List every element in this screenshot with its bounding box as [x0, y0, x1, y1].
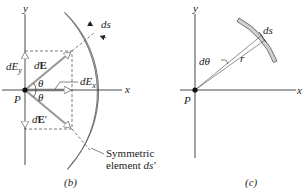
panel-b: y x P dEy dE dE′ dEx θ θ ds Symmetric el…	[2, 2, 156, 188]
origin-label-c: P	[183, 94, 191, 106]
x-axis-label-c: x	[296, 84, 302, 96]
caption-b: (b)	[64, 176, 77, 188]
dE-vector	[25, 53, 70, 91]
point-P-c	[192, 87, 197, 92]
r-label: r	[240, 52, 245, 64]
caption-c: (c)	[245, 176, 258, 188]
origin-label-b: P	[13, 93, 21, 105]
ds-label-c: ds	[263, 24, 273, 36]
y-axis-label-b: y	[22, 2, 28, 14]
theta-label-lower: θ	[38, 91, 44, 103]
dE-label: dE	[34, 59, 47, 71]
ds-tick-2	[100, 36, 106, 38]
ds-tick-1	[88, 23, 93, 26]
panel-c: y x P dθ r ds (c)	[180, 2, 302, 188]
ds-prime-leader	[91, 148, 104, 154]
ds-label-b: ds	[101, 18, 111, 30]
dEx-leader	[55, 82, 78, 89]
dtheta-label: dθ	[199, 55, 211, 67]
symmetric-label-line2: element ds′	[106, 159, 156, 171]
symmetric-label-line1: Symmetric	[106, 147, 154, 159]
x-axis-label-b: x	[124, 83, 130, 95]
dE-prime-label: dE′	[32, 113, 47, 125]
y-axis-label-c: y	[192, 2, 198, 14]
dEx-label: dEx	[80, 75, 96, 90]
theta-label-upper: θ	[38, 77, 44, 89]
dEy-label: dEy	[6, 60, 22, 75]
point-P-b	[22, 87, 27, 92]
figure: y x P dEy dE dE′ dEx θ θ ds Symmetric el…	[0, 0, 308, 188]
